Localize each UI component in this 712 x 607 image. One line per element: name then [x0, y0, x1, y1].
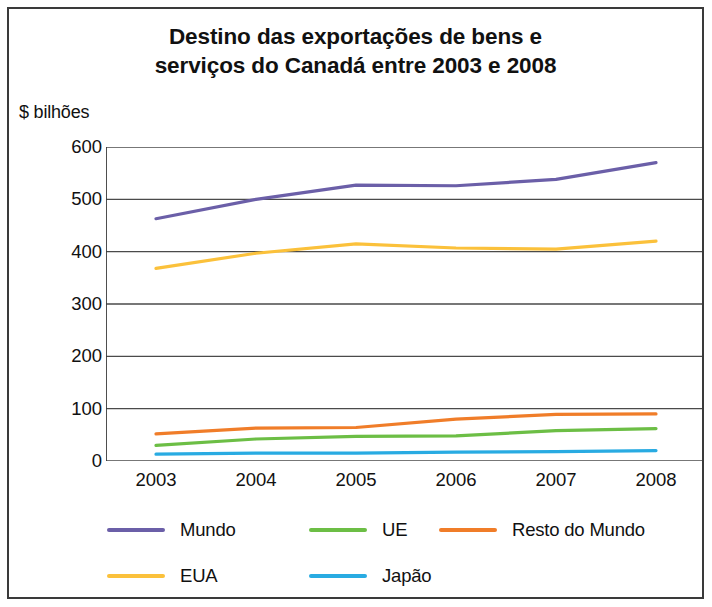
legend-swatch-icon	[439, 528, 497, 532]
plot-svg	[106, 147, 704, 461]
chart-title-line-2: serviços do Canadá entre 2003 e 2008	[9, 52, 702, 81]
series-line-mundo	[156, 163, 656, 219]
series-line-japão	[156, 451, 656, 455]
chart-figure: Destino das exportações de bens e serviç…	[7, 7, 704, 599]
legend-swatch-icon	[309, 574, 367, 578]
legend-label: Mundo	[180, 519, 236, 541]
legend-item-resto-do-mundo[interactable]: Resto do Mundo	[439, 519, 645, 541]
legend-label: Japão	[382, 565, 431, 587]
x-tick-label: 2008	[601, 469, 704, 491]
legend-swatch-icon	[107, 528, 165, 532]
plot-area: 0100200300400500600 20032004200520062007…	[106, 147, 704, 461]
legend-label: Resto do Mundo	[512, 519, 645, 541]
legend-swatch-icon	[107, 574, 165, 578]
y-tick-label: 300	[12, 293, 102, 315]
legend-item-ue[interactable]: UE	[309, 519, 407, 541]
y-axis-label: $ bilhões	[19, 102, 89, 123]
chart-legend: MundoUEResto do MundoEUAJapão	[9, 507, 704, 597]
x-tick-label: 2005	[301, 469, 411, 491]
legend-label: EUA	[180, 565, 217, 587]
legend-item-eua[interactable]: EUA	[107, 565, 217, 587]
series-line-eua	[156, 241, 656, 268]
legend-item-japão[interactable]: Japão	[309, 565, 431, 587]
x-tick-label: 2006	[401, 469, 511, 491]
legend-swatch-icon	[309, 528, 367, 532]
y-tick-label: 400	[12, 241, 102, 263]
y-tick-label: 0	[12, 450, 102, 472]
y-tick-label: 200	[12, 345, 102, 367]
y-tick-label: 100	[12, 398, 102, 420]
x-tick-label: 2003	[101, 469, 211, 491]
x-tick-label: 2007	[501, 469, 611, 491]
y-tick-label: 600	[12, 136, 102, 158]
legend-item-mundo[interactable]: Mundo	[107, 519, 236, 541]
chart-title-line-1: Destino das exportações de bens e	[9, 23, 702, 52]
legend-label: UE	[382, 519, 407, 541]
x-tick-label: 2004	[201, 469, 311, 491]
y-tick-label: 500	[12, 188, 102, 210]
chart-title: Destino das exportações de bens e serviç…	[9, 23, 702, 81]
